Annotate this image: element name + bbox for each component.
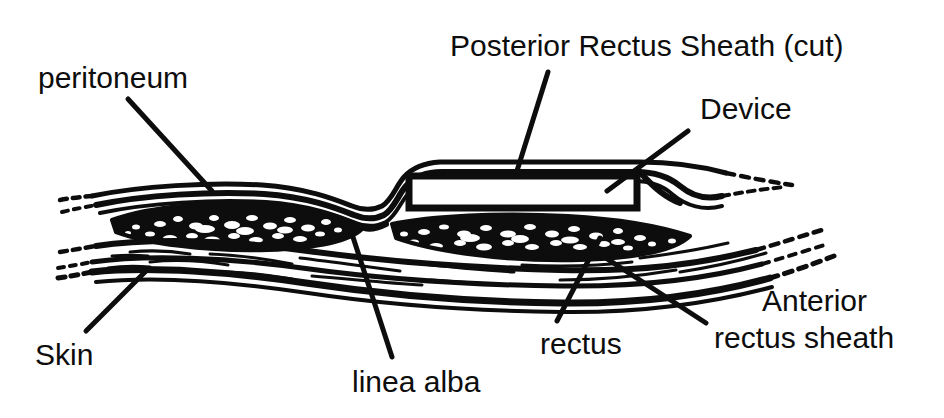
label-posterior-rectus-sheath: Posterior Rectus Sheath (cut): [450, 29, 844, 62]
label-device: Device: [700, 92, 792, 125]
anatomy-group: [58, 162, 834, 312]
label-anterior-rectus-sheath-line2: rectus sheath: [714, 321, 894, 354]
posterior-sheath-fade-right: [722, 187, 784, 196]
label-skin: Skin: [35, 338, 93, 371]
anterior-sheath-fade-right-top: [756, 230, 822, 250]
anterior-sheath-fade-left-bottom: [58, 262, 92, 268]
peritoneum-fade-right: [726, 173, 792, 185]
leader-posterior-sheath: [516, 72, 548, 174]
device-implant[interactable]: [409, 176, 637, 208]
label-peritoneum: peritoneum: [38, 61, 188, 94]
rectus-muscle-right: [392, 214, 690, 260]
label-linea-alba: linea alba: [352, 365, 481, 398]
diagram-canvas: peritoneum Posterior Rectus Sheath (cut)…: [0, 0, 944, 418]
posterior-sheath-fade-left: [62, 205, 96, 212]
label-rectus: rectus: [540, 327, 622, 360]
anatomical-figure: peritoneum Posterior Rectus Sheath (cut)…: [0, 0, 944, 418]
device-box[interactable]: [409, 176, 637, 208]
peritoneum-fade-left: [60, 196, 92, 200]
label-anterior-rectus-sheath-line1: Anterior: [762, 284, 867, 317]
skin-fade-left: [58, 272, 92, 278]
leader-peritoneum: [128, 99, 212, 191]
anterior-sheath-fade-left-top: [60, 246, 96, 252]
